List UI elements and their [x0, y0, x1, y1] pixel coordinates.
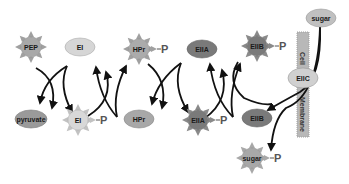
- node-eiia-phosphorylated: EIIA P: [182, 104, 227, 136]
- node-eiia: EIIA: [187, 40, 217, 58]
- svg-text:HPr: HPr: [133, 46, 146, 53]
- node-sugar-phosphate: sugar P: [236, 142, 281, 174]
- pts-diagram: Cell Membrane PEP EI: [0, 0, 349, 184]
- svg-text:pyruvate: pyruvate: [16, 116, 45, 124]
- svg-text:sugar: sugar: [242, 155, 261, 163]
- node-pep: PEP: [15, 31, 47, 63]
- svg-text:EIIA: EIIA: [191, 117, 205, 124]
- node-ei: EI: [65, 38, 95, 56]
- node-ei-phosphorylated: EI P: [62, 104, 107, 136]
- membrane-label-cell: Cell: [299, 52, 306, 65]
- phosphate-label: P: [220, 114, 227, 126]
- node-hpr-phosphorylated: HPr P: [123, 33, 168, 65]
- svg-text:EIIB: EIIB: [250, 43, 264, 50]
- node-sugar-external: sugar: [306, 9, 336, 27]
- svg-text:EIIA: EIIA: [195, 46, 209, 53]
- svg-text:HPr: HPr: [133, 116, 146, 123]
- svg-text:EIIB: EIIB: [250, 115, 264, 122]
- phosphate-label: P: [274, 152, 281, 164]
- node-hpr: HPr: [124, 110, 154, 128]
- svg-text:PEP: PEP: [24, 44, 38, 51]
- phosphate-label: P: [161, 43, 168, 55]
- node-eiib: EIIB: [242, 109, 272, 127]
- phosphate-label: P: [279, 40, 286, 52]
- svg-text:EIIC: EIIC: [296, 75, 310, 82]
- phosphate-label: P: [100, 114, 107, 126]
- node-eiic: EIIC: [288, 68, 318, 88]
- svg-text:EI: EI: [77, 44, 84, 51]
- svg-text:sugar: sugar: [311, 15, 330, 23]
- node-pyruvate: pyruvate: [15, 110, 47, 128]
- membrane-label-membrane: Membrane: [299, 97, 306, 132]
- node-eiib-phosphorylated: EIIB P: [241, 30, 286, 62]
- svg-text:EI: EI: [75, 117, 82, 124]
